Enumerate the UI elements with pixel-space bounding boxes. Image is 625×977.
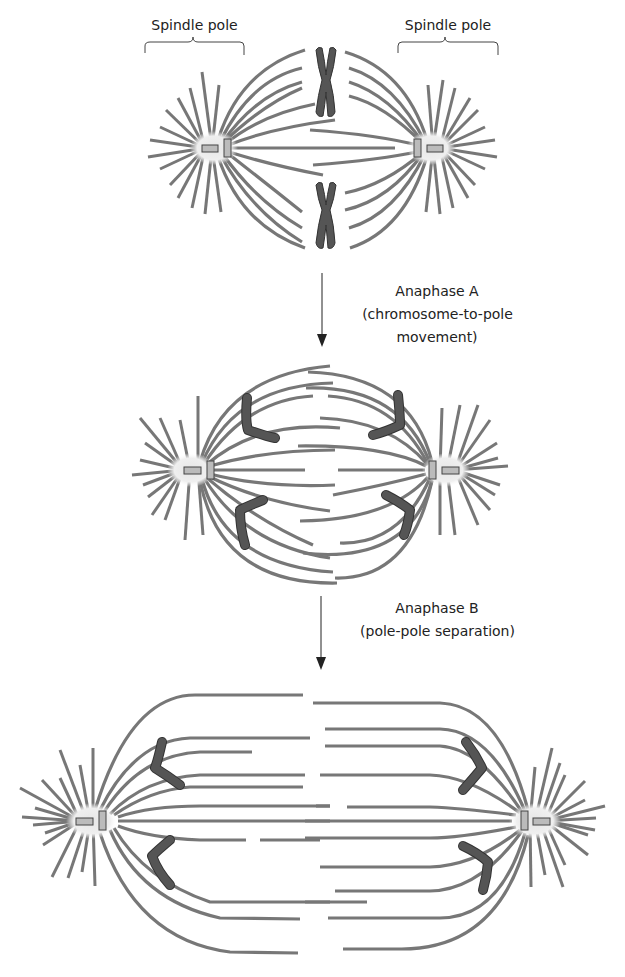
anaphase-b-description: (pole-pole separation) [340,622,535,640]
spindle-microtubules-anaphase-b [95,695,528,953]
centrosome-left [190,131,238,165]
anaphase-b-title: Anaphase B [352,599,522,617]
anaphase-a-description-line1: (chromosome-to-pole [340,305,535,323]
centrosome-right-b [509,803,561,839]
chromosome-anaphase-b-top-left [155,742,180,785]
anaphase-b-spindle [20,695,605,953]
spindle-pole-bracket-left [145,37,244,55]
anaphase-a-description-line2: movement) [352,328,522,346]
centrosome-left-a [167,453,215,487]
chromosome-anaphase-b-bottom-left [152,840,170,885]
chromosome-anaphase-a-bottom-left [240,500,263,545]
centrosome-left-b [66,803,118,839]
chromosome-metaphase-top [316,47,336,116]
centrosome-right [407,131,455,165]
centrosome-right-a [422,453,470,487]
chromosome-anaphase-b-top-right [463,742,482,790]
anaphase-a-title: Anaphase A [352,282,522,300]
mitotic-spindle-diagram [0,0,625,977]
metaphase-spindle [145,37,498,248]
spindle-pole-bracket-right [398,37,498,55]
arrow-anaphase-b [316,596,326,670]
anaphase-a-spindle [132,366,508,583]
chromosome-metaphase-bottom [316,182,336,248]
arrow-anaphase-a [317,273,327,347]
spindle-pole-label-right: Spindle pole [393,16,503,34]
spindle-pole-label-left: Spindle pole [142,16,247,34]
